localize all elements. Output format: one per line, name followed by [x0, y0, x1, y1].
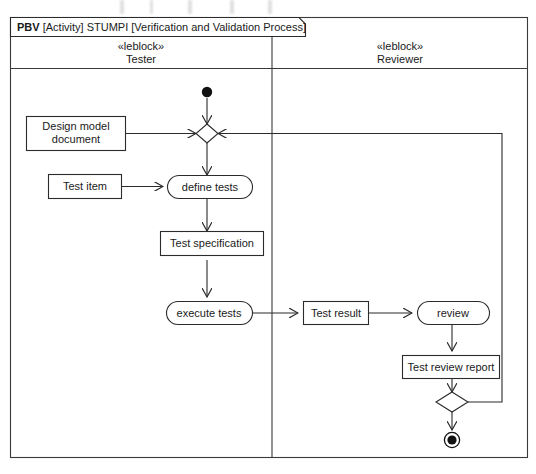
activity-final-node[interactable] — [447, 435, 456, 444]
merge-node[interactable] — [196, 124, 218, 143]
action-review-label: review — [437, 307, 469, 319]
partition-tester-stereotype: «leblock» — [118, 40, 164, 52]
action-define-tests-label: define tests — [182, 181, 239, 193]
initial-node[interactable] — [202, 87, 212, 97]
activity-diagram-canvas: PBV [Activity] STUMPI [Verification and … — [0, 0, 536, 474]
frame-tab-keyword: PBV — [17, 21, 40, 33]
frame-tab-text: PBV [Activity] STUMPI [Verification and … — [17, 21, 306, 33]
object-design-model-document-label-line1: Design model — [42, 120, 109, 132]
object-test-specification-label: Test specification — [170, 237, 254, 249]
partition-tester-name: Tester — [126, 53, 156, 65]
diagram-frame — [11, 18, 528, 458]
object-test-result-label: Test result — [311, 307, 361, 319]
decision-node[interactable] — [436, 392, 468, 412]
frame-tab-title: [Activity] STUMPI [Verification and Vali… — [40, 21, 306, 33]
partition-reviewer-name: Reviewer — [377, 53, 423, 65]
action-execute-tests-label: execute tests — [177, 307, 242, 319]
object-test-item-label: Test item — [63, 180, 107, 192]
object-test-review-report-label: Test review report — [408, 361, 495, 373]
object-design-model-document-label-line2: document — [52, 133, 100, 145]
partition-reviewer-stereotype: «leblock» — [377, 40, 423, 52]
